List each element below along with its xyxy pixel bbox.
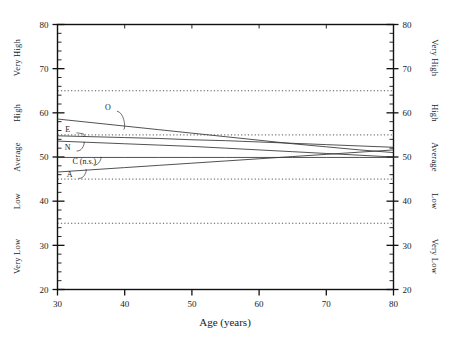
right-category-label-very-high: Very High [430, 39, 440, 77]
series-curve-n [58, 141, 394, 157]
x-tick-label-30: 30 [53, 299, 63, 309]
left-category-label-low: Low [12, 192, 22, 209]
right-category-label-very-low: Very Low [430, 239, 440, 275]
left-category-label-very-high: Very High [12, 39, 22, 77]
y-tick-label-right-40: 40 [403, 196, 413, 206]
y-tick-label-right-20: 20 [403, 285, 413, 295]
x-tick-label-80: 80 [389, 299, 399, 309]
y-tick-label-right-70: 70 [403, 64, 413, 74]
right-category-label-low: Low [430, 193, 440, 210]
y-tick-label-left-60: 60 [40, 108, 50, 118]
y-tick-label-right-30: 30 [403, 241, 413, 251]
y-tick-label-left-80: 80 [40, 20, 50, 30]
left-category-label-high: High [12, 103, 22, 121]
y-tick-label-left-50: 50 [40, 152, 50, 162]
y-tick-label-left-30: 30 [40, 241, 50, 251]
series-label-a: A [67, 170, 73, 179]
chart-canvas: OENC (n.s.)A 202030304040505060607070808… [0, 0, 461, 337]
x-tick-label-60: 60 [255, 299, 265, 309]
x-tick-label-70: 70 [322, 299, 332, 309]
y-tick-label-left-40: 40 [40, 196, 50, 206]
y-tick-label-right-50: 50 [403, 152, 413, 162]
series-curve-a [58, 150, 394, 172]
series-label-e: E [65, 125, 70, 134]
x-axis-title: Age (years) [199, 316, 251, 329]
series-curves-group [58, 119, 394, 172]
left-category-label-very-low: Very Low [12, 238, 22, 274]
series-leader-o [117, 111, 125, 129]
x-tick-label-50: 50 [187, 299, 197, 309]
axis-ticks-group [53, 25, 399, 296]
plot-frame [58, 25, 394, 290]
y-tick-label-right-80: 80 [403, 20, 413, 30]
y-tick-label-left-20: 20 [40, 285, 50, 295]
right-category-label-average: Average [430, 142, 440, 172]
x-tick-label-40: 40 [120, 299, 130, 309]
series-leader-n [77, 142, 85, 151]
series-label-o: O [105, 103, 111, 112]
y-tick-label-right-60: 60 [403, 108, 413, 118]
personality-age-chart: OENC (n.s.)A 202030304040505060607070808… [0, 0, 461, 337]
series-label-cns: C (n.s.) [72, 157, 96, 166]
series-label-n: N [65, 143, 71, 152]
series-curve-e [58, 136, 394, 147]
y-tick-label-left-70: 70 [40, 64, 50, 74]
left-category-label-average: Average [12, 142, 22, 172]
series-curve-o [58, 119, 394, 153]
right-category-label-high: High [430, 104, 440, 122]
